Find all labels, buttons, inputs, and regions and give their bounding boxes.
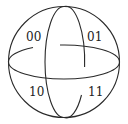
equator-front <box>9 62 120 79</box>
equator-back-right <box>60 45 120 62</box>
label-10: 10 <box>29 85 44 99</box>
equator-back-left <box>8 48 33 63</box>
label-00: 00 <box>26 30 41 44</box>
label-11: 11 <box>88 85 103 99</box>
sphere-outline <box>9 7 120 118</box>
meridian-right-lower <box>64 95 82 118</box>
label-01: 01 <box>87 30 102 44</box>
sphere-diagram: 00 01 10 11 <box>0 0 128 124</box>
meridian-right-upper <box>64 6 85 67</box>
meridian-left <box>45 7 64 118</box>
